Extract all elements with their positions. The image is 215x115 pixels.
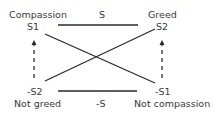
implication-arrow-right <box>160 40 165 78</box>
s-edge-label: S <box>99 9 105 20</box>
compassion-label: Compassion <box>9 9 67 20</box>
contradiction-line-s2 <box>45 29 155 81</box>
neg-s-edge-label: -S <box>96 98 105 109</box>
s2-label: S2 <box>156 21 168 32</box>
neg-s2-label: -S2 <box>27 86 43 97</box>
greed-label: Greed <box>148 9 177 20</box>
s1-label: S1 <box>27 21 39 32</box>
contradiction-line-s1 <box>45 34 155 83</box>
not-compassion-label: Not compassion <box>134 98 210 109</box>
not-greed-label: Not greed <box>14 98 61 109</box>
implication-arrow-left <box>32 40 37 78</box>
neg-s1-label: -S1 <box>155 86 171 97</box>
